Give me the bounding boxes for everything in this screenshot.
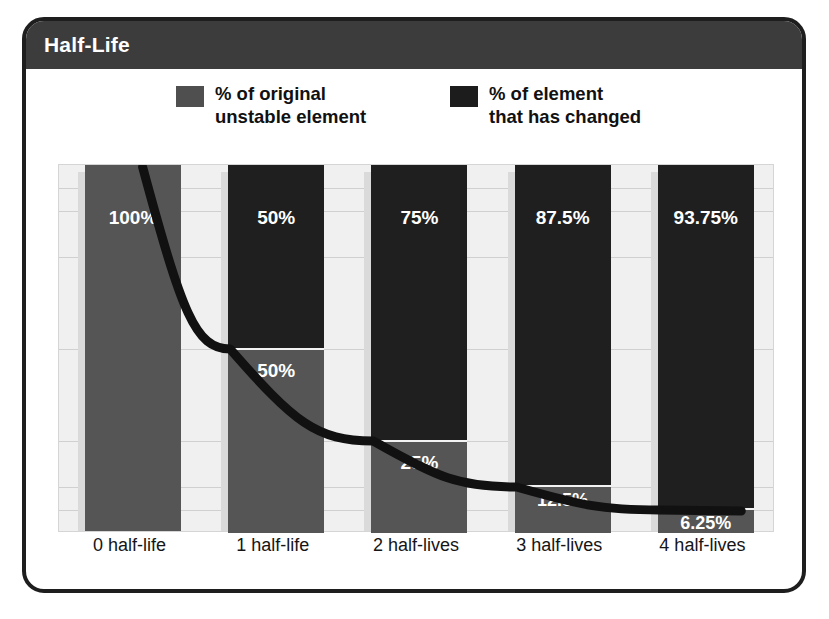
bar-stack: 93.75%6.25% bbox=[658, 165, 754, 531]
legend-label-original: % of original unstable element bbox=[215, 83, 366, 128]
bar-stack: 50%50% bbox=[228, 165, 324, 531]
bar-segment-label: 12.5% bbox=[537, 490, 588, 511]
bar-group[interactable]: 50%50% bbox=[228, 165, 324, 531]
bar-segment-original[interactable]: 12.5% bbox=[515, 487, 611, 533]
bar-segment-label: 93.75% bbox=[674, 207, 738, 229]
bar-segment-changed[interactable]: 50% bbox=[228, 165, 324, 350]
x-axis-tick-label: 0 half-life bbox=[58, 535, 201, 556]
legend-item-original: % of original unstable element bbox=[176, 83, 366, 128]
legend-swatch-changed-icon bbox=[450, 86, 478, 107]
bar-stack: 75%25% bbox=[371, 165, 467, 531]
bar-segment-label: 50% bbox=[257, 207, 295, 229]
bar-segment-original[interactable]: 50% bbox=[228, 350, 324, 533]
bar-segment-original[interactable]: 100% bbox=[85, 165, 181, 531]
bar-segment-label: 87.5% bbox=[536, 207, 590, 229]
bar-group[interactable]: 75%25% bbox=[371, 165, 467, 531]
bar-stack: 100% bbox=[85, 165, 181, 531]
x-axis-tick-label: 3 half-lives bbox=[488, 535, 631, 556]
figure-frame: Half-Life % of original unstable element… bbox=[22, 17, 806, 593]
bar-group[interactable]: 87.5%12.5% bbox=[515, 165, 611, 531]
page-title: Half-Life bbox=[44, 33, 130, 57]
chart-legend: % of original unstable element % of elem… bbox=[26, 69, 802, 157]
bar-segment-label: 50% bbox=[257, 360, 295, 382]
bar-segment-original[interactable]: 25% bbox=[371, 442, 467, 534]
x-axis-tick-label: 4 half-lives bbox=[631, 535, 774, 556]
bar-segment-changed[interactable]: 87.5% bbox=[515, 165, 611, 487]
figure-title-bar: Half-Life bbox=[26, 21, 802, 69]
bar-segment-label: 100% bbox=[109, 207, 158, 229]
bar-group[interactable]: 93.75%6.25% bbox=[658, 165, 754, 531]
chart-plot-area: 100%50%50%75%25%87.5%12.5%93.75%6.25% bbox=[58, 164, 774, 532]
legend-item-changed: % of element that has changed bbox=[450, 83, 641, 128]
x-axis-tick-label: 2 half-lives bbox=[344, 535, 487, 556]
bar-segment-label: 6.25% bbox=[680, 513, 731, 533]
bar-stack: 87.5%12.5% bbox=[515, 165, 611, 531]
bar-group[interactable]: 100% bbox=[85, 165, 181, 531]
bar-segment-original[interactable]: 6.25% bbox=[658, 510, 754, 533]
chart-bars-layer: 100%50%50%75%25%87.5%12.5%93.75%6.25% bbox=[59, 165, 773, 531]
bar-segment-changed[interactable]: 93.75% bbox=[658, 165, 754, 510]
legend-label-changed: % of element that has changed bbox=[489, 83, 641, 128]
legend-swatch-original-icon bbox=[176, 86, 204, 107]
chart-x-axis: 0 half-life1 half-life2 half-lives3 half… bbox=[58, 535, 774, 569]
bar-segment-label: 25% bbox=[400, 452, 438, 474]
bar-segment-changed[interactable]: 75% bbox=[371, 165, 467, 442]
x-axis-tick-label: 1 half-life bbox=[201, 535, 344, 556]
bar-segment-label: 75% bbox=[400, 207, 438, 229]
